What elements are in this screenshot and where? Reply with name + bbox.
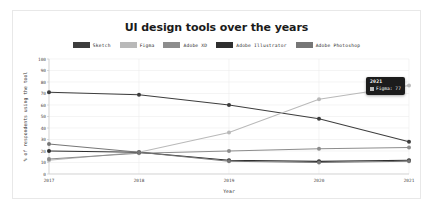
- x-axis-ticks: 20172018201920202021: [44, 178, 415, 183]
- svg-text:70: 70: [41, 91, 47, 96]
- screenshot-root: UI design tools over the years Sketch Fi…: [0, 0, 433, 210]
- x-axis-title: Year: [223, 189, 235, 194]
- svg-text:50: 50: [41, 114, 47, 119]
- svg-text:2020: 2020: [314, 178, 325, 183]
- svg-text:2017: 2017: [44, 178, 55, 183]
- svg-text:40: 40: [41, 126, 47, 131]
- data-point[interactable]: [407, 146, 411, 150]
- data-point[interactable]: [227, 159, 231, 163]
- svg-text:2019: 2019: [224, 178, 235, 183]
- svg-text:60: 60: [41, 103, 47, 108]
- data-point[interactable]: [137, 93, 141, 97]
- svg-text:0: 0: [43, 172, 46, 177]
- data-point[interactable]: [317, 97, 321, 101]
- data-point[interactable]: [317, 147, 321, 151]
- data-point[interactable]: [47, 149, 51, 153]
- data-point[interactable]: [227, 149, 231, 153]
- data-point[interactable]: [407, 83, 411, 87]
- grid-lines: [49, 59, 409, 174]
- data-point[interactable]: [317, 117, 321, 121]
- data-point[interactable]: [317, 161, 321, 165]
- plot-area: 0102030405060708090100 20172018201920202…: [13, 11, 422, 200]
- line-chart-svg[interactable]: 0102030405060708090100 20172018201920202…: [13, 11, 422, 200]
- tooltip-row: Figma: 77: [370, 86, 401, 92]
- svg-text:80: 80: [41, 80, 47, 85]
- data-point[interactable]: [407, 140, 411, 144]
- tooltip-swatch-icon: [370, 87, 374, 91]
- data-point[interactable]: [47, 142, 51, 146]
- chart-card: UI design tools over the years Sketch Fi…: [12, 10, 421, 199]
- svg-text:90: 90: [41, 68, 47, 73]
- data-point[interactable]: [227, 103, 231, 107]
- data-point[interactable]: [227, 131, 231, 135]
- svg-text:30: 30: [41, 137, 47, 142]
- tooltip-title: 2021: [370, 79, 401, 85]
- data-point[interactable]: [407, 159, 411, 163]
- svg-text:100: 100: [38, 57, 46, 62]
- chart-tooltip: 2021 Figma: 77: [366, 77, 405, 95]
- svg-text:10: 10: [41, 160, 47, 165]
- data-point[interactable]: [47, 157, 51, 161]
- svg-text:2018: 2018: [134, 178, 145, 183]
- tooltip-value-label: Figma: 77: [376, 86, 401, 92]
- svg-text:2021: 2021: [404, 178, 415, 183]
- data-point[interactable]: [137, 150, 141, 154]
- data-point[interactable]: [47, 90, 51, 94]
- svg-text:20: 20: [41, 149, 47, 154]
- y-axis-title: % of respondents using the tool: [23, 72, 29, 162]
